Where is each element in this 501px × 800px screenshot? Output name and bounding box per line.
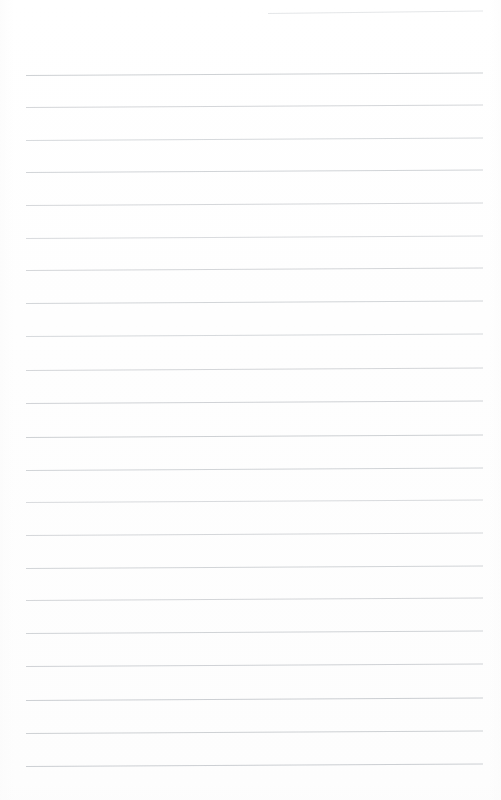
ruled-line bbox=[26, 598, 483, 601]
ruled-line bbox=[26, 631, 483, 634]
ruled-line bbox=[26, 533, 483, 536]
ruled-line bbox=[26, 401, 483, 404]
ruled-line bbox=[26, 236, 483, 239]
ruled-line bbox=[26, 268, 483, 271]
ruled-line bbox=[26, 764, 483, 767]
ruled-line bbox=[26, 566, 483, 569]
ruled-line bbox=[26, 105, 483, 108]
ruled-line bbox=[26, 731, 483, 734]
page-edge-vignette bbox=[0, 0, 501, 800]
paper-surface bbox=[0, 0, 501, 800]
ruled-line bbox=[26, 203, 483, 206]
ruled-line bbox=[26, 368, 483, 371]
ruled-line bbox=[26, 138, 483, 141]
ruled-line bbox=[26, 500, 483, 503]
ruled-line bbox=[26, 468, 483, 471]
ruled-line-partial bbox=[268, 11, 483, 14]
ruled-line bbox=[26, 334, 483, 337]
ruled-line bbox=[26, 698, 483, 701]
ruled-line bbox=[26, 664, 483, 667]
scanned-page bbox=[0, 0, 501, 800]
ruled-line bbox=[26, 435, 483, 438]
ruled-line bbox=[26, 170, 483, 173]
ruled-line bbox=[26, 301, 483, 304]
ruled-line bbox=[26, 73, 483, 76]
